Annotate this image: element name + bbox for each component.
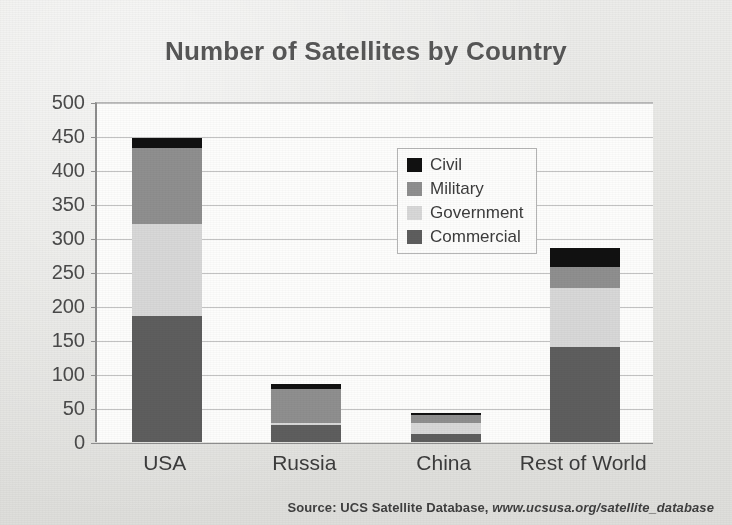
bar-segment-government bbox=[550, 288, 620, 348]
legend-swatch-military-icon bbox=[407, 182, 422, 196]
gridline bbox=[97, 443, 653, 444]
y-axis-tick-label: 150 bbox=[0, 329, 85, 352]
bar-segment-commercial bbox=[132, 316, 202, 442]
source-url: www.ucsusa.org/satellite_database bbox=[492, 500, 714, 515]
y-axis-tick-label: 200 bbox=[0, 295, 85, 318]
y-axis-tick bbox=[91, 239, 97, 240]
y-axis-tick-label: 450 bbox=[0, 125, 85, 148]
legend-swatch-civil-icon bbox=[407, 158, 422, 172]
source-prefix: Source: UCS Satellite Database, bbox=[287, 500, 492, 515]
y-axis-tick bbox=[91, 103, 97, 104]
y-axis-tick-label: 400 bbox=[0, 159, 85, 182]
legend-item-military[interactable]: Military bbox=[407, 180, 524, 197]
bar-segment-commercial bbox=[411, 434, 481, 442]
bar-segment-military bbox=[132, 148, 202, 224]
chart-figure: Number of Satellites by Country 50045040… bbox=[0, 0, 732, 525]
y-axis-tick-label: 50 bbox=[0, 397, 85, 420]
legend-label: Commercial bbox=[430, 228, 521, 245]
x-axis-tick-label: Russia bbox=[272, 451, 336, 475]
y-axis-tick bbox=[91, 375, 97, 376]
legend-swatch-government-icon bbox=[407, 206, 422, 220]
y-axis-tick bbox=[91, 307, 97, 308]
bar-segment-military bbox=[271, 389, 341, 423]
bar-segment-government bbox=[132, 224, 202, 316]
y-axis-tick bbox=[91, 171, 97, 172]
x-axis-tick-label: Rest of World bbox=[520, 451, 647, 475]
x-axis-tick-label: USA bbox=[143, 451, 186, 475]
chart-legend: CivilMilitaryGovernmentCommercial bbox=[397, 148, 537, 254]
bar-segment-military bbox=[411, 415, 481, 423]
legend-label: Civil bbox=[430, 156, 462, 173]
legend-label: Government bbox=[430, 204, 524, 221]
legend-item-commercial[interactable]: Commercial bbox=[407, 228, 524, 245]
bar-segment-commercial bbox=[550, 347, 620, 442]
bar-segment-military bbox=[550, 267, 620, 287]
bar-rest-of-world bbox=[550, 248, 620, 442]
source-note: Source: UCS Satellite Database, www.ucsu… bbox=[287, 500, 714, 515]
y-axis-tick bbox=[91, 273, 97, 274]
bar-russia bbox=[271, 384, 341, 442]
legend-item-civil[interactable]: Civil bbox=[407, 156, 524, 173]
plot-area bbox=[95, 102, 653, 442]
legend-label: Military bbox=[430, 180, 484, 197]
y-axis-tick bbox=[91, 409, 97, 410]
gridline bbox=[97, 103, 653, 104]
y-axis-tick-label: 500 bbox=[0, 91, 85, 114]
y-axis-tick bbox=[91, 341, 97, 342]
y-axis-tick-label: 0 bbox=[0, 431, 85, 454]
legend-item-government[interactable]: Government bbox=[407, 204, 524, 221]
chart-title: Number of Satellites by Country bbox=[0, 36, 732, 67]
y-axis-tick-label: 100 bbox=[0, 363, 85, 386]
y-axis-tick-label: 350 bbox=[0, 193, 85, 216]
legend-swatch-commercial-icon bbox=[407, 230, 422, 244]
y-axis-tick-label: 250 bbox=[0, 261, 85, 284]
y-axis-tick-label: 300 bbox=[0, 227, 85, 250]
bar-segment-government bbox=[411, 423, 481, 434]
bar-segment-commercial bbox=[271, 425, 341, 442]
bar-usa bbox=[132, 138, 202, 442]
x-axis-tick-label: China bbox=[416, 451, 471, 475]
y-axis-tick bbox=[91, 137, 97, 138]
bar-segment-civil bbox=[550, 248, 620, 267]
bar-china bbox=[411, 413, 481, 442]
y-axis-tick bbox=[91, 443, 97, 444]
y-axis-tick bbox=[91, 205, 97, 206]
bar-segment-civil bbox=[132, 138, 202, 148]
